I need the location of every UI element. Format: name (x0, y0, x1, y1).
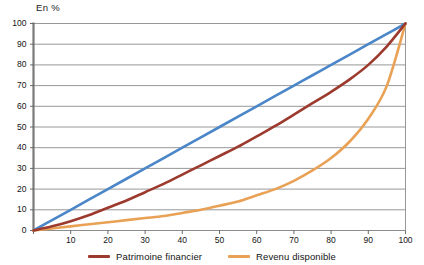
legend-swatch-patrimoine (88, 255, 110, 259)
lorenz-curve-chart: En % 0102030405060708090100 102030405060… (0, 0, 424, 265)
legend-swatch-revenu (228, 255, 250, 259)
plot-area (0, 0, 424, 265)
legend-entry[interactable]: Revenu disponible (228, 251, 336, 262)
legend-label: Revenu disponible (256, 251, 336, 262)
legend-entry[interactable]: Patrimoine financier (88, 251, 202, 262)
legend-label: Patrimoine financier (116, 251, 202, 262)
chart-legend: Patrimoine financierRevenu disponible (0, 248, 424, 265)
